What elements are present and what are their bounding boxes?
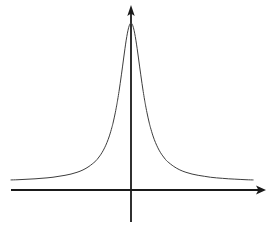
- plot-background: [0, 0, 275, 228]
- plot-canvas: [0, 0, 275, 228]
- figure-root: [0, 0, 275, 228]
